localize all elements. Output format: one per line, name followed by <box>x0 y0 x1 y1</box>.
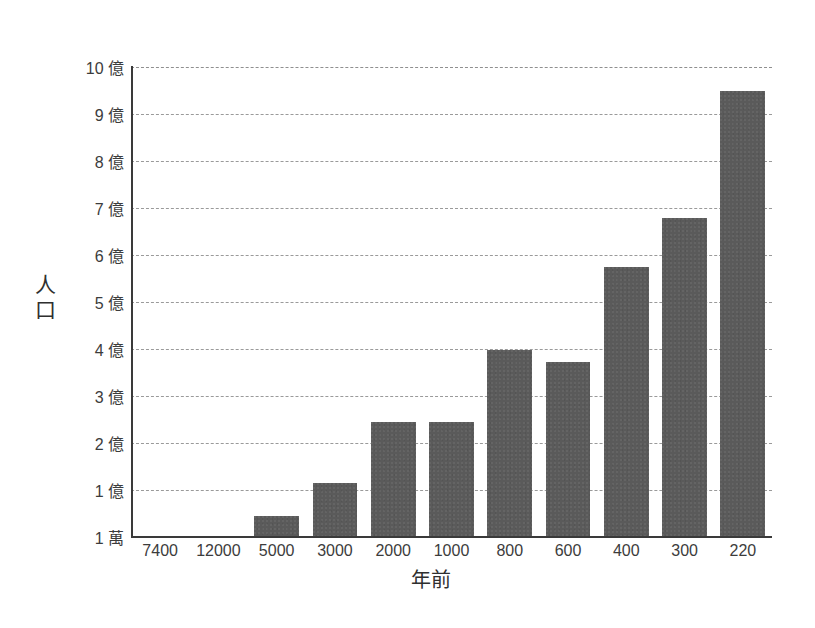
y-axis-tick-label: 2 億 <box>4 431 124 455</box>
y-axis-tick-labels: 10 億9 億8 億7 億6 億5 億4 億3 億2 億1 億1 萬 <box>0 0 124 628</box>
y-axis-tick-label: 9 億 <box>4 102 124 126</box>
x-axis-tick-label: 300 <box>655 542 713 560</box>
y-axis-tick-label: 5 億 <box>4 290 124 314</box>
y-axis-tick-label: 3 億 <box>4 384 124 408</box>
y-axis-tick-label: 7 億 <box>4 196 124 220</box>
x-axis-title: 年前 <box>0 564 815 593</box>
x-axis-tick-label: 2000 <box>364 542 422 560</box>
x-axis-tick-label: 1000 <box>422 542 480 560</box>
y-axis-tick-label: 6 億 <box>4 243 124 267</box>
y-axis-tick-label: 8 億 <box>4 149 124 173</box>
y-axis-tick-label: 1 萬 <box>4 525 124 549</box>
x-axis-tick-label: 3000 <box>306 542 364 560</box>
y-axis-tick-label: 4 億 <box>4 337 124 361</box>
x-axis-tick-labels: 7400120005000300020001000800600400300220 <box>131 0 772 628</box>
x-axis-tick-label: 800 <box>481 542 539 560</box>
x-axis-tick-label: 7400 <box>131 542 189 560</box>
x-axis-tick-label: 5000 <box>248 542 306 560</box>
y-axis-tick-label: 10 億 <box>4 55 124 79</box>
x-axis-tick-label: 400 <box>597 542 655 560</box>
population-bar-chart: 人 口 10 億9 億8 億7 億6 億5 億4 億3 億2 億1 億1 萬 7… <box>0 0 815 628</box>
y-axis-tick-label: 1 億 <box>4 478 124 502</box>
x-axis-tick-label: 600 <box>539 542 597 560</box>
x-axis-tick-label: 220 <box>714 542 772 560</box>
x-axis-tick-label: 12000 <box>189 542 247 560</box>
